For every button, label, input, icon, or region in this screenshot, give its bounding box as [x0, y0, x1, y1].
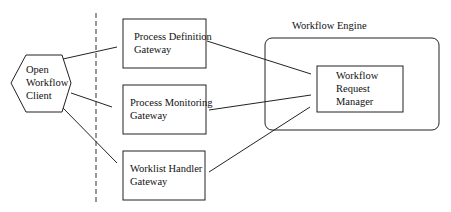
workflow-architecture-diagram: Open Workflow Client Process Definition … [0, 0, 451, 212]
client-label: Open Workflow Client [26, 63, 68, 102]
gateway-label-line: Process Monitoring [130, 96, 213, 109]
manager-label-line: Request [336, 82, 378, 95]
process-monitoring-gateway-label: Process Monitoring Gateway [130, 96, 213, 122]
workflow-request-manager-label: Workflow Request Manager [336, 69, 378, 108]
connector-worklist-to-manager [209, 107, 310, 172]
gateway-label-line: Gateway [130, 109, 213, 122]
gateway-label-line: Gateway [130, 175, 202, 188]
connector-definition-to-manager [207, 41, 311, 74]
process-definition-gateway-label: Process Definition Gateway [134, 30, 212, 56]
diagram-shapes [0, 0, 451, 212]
connector-client-to-definition [63, 47, 117, 59]
worklist-handler-gateway-label: Worklist Handler Gateway [130, 162, 202, 188]
manager-label-line: Workflow [336, 69, 378, 82]
connector-monitoring-to-manager [209, 95, 311, 110]
workflow-engine-title: Workflow Engine [292, 19, 367, 32]
client-label-line: Open [26, 63, 68, 76]
gateway-label-line: Worklist Handler [130, 162, 202, 175]
gateway-label-line: Gateway [134, 43, 212, 56]
connector-client-to-worklist [63, 108, 117, 163]
connector-client-to-monitoring [71, 93, 112, 107]
manager-label-line: Manager [336, 95, 378, 108]
client-label-line: Client [26, 89, 68, 102]
gateway-label-line: Process Definition [134, 30, 212, 43]
client-label-line: Workflow [26, 76, 68, 89]
